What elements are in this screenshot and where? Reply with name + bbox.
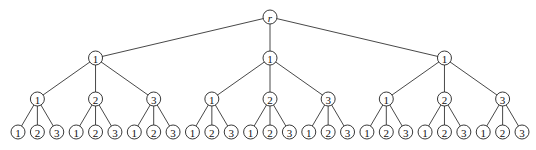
tree-edge [37,58,95,99]
tree-node: 3 [496,92,510,106]
node-label: 3 [345,127,351,139]
node-label: 1 [248,127,254,139]
tree-node: 2 [437,92,451,106]
node-label: r [268,12,273,24]
tree-leaf-node: 2 [30,125,44,139]
tree-leaf-node: 3 [282,125,296,139]
node-label: 2 [209,127,215,139]
tree-leaf-node: 2 [147,125,161,139]
tree-node: 1 [89,51,103,65]
node-label: 3 [287,127,293,139]
node-label: 3 [54,127,60,139]
tree-leaf-node: 3 [50,125,64,139]
tree-edge [96,17,270,58]
tree-diagram: 123112321233112311232123311231123212331r [0,0,536,150]
tree-leaf-node: 1 [302,125,316,139]
node-label: 1 [73,127,79,139]
tree-leaf-node: 1 [476,125,490,139]
tree-leaf-node: 1 [69,125,83,139]
tree-node: 1 [30,92,44,106]
node-label: 2 [151,127,157,139]
node-label: 2 [500,127,506,139]
node-label: 3 [112,127,118,139]
tree-node: 1 [437,51,451,65]
node-label: 3 [325,94,331,106]
node-label: 1 [422,127,428,139]
node-label: 1 [384,94,390,106]
node-label: 1 [93,53,99,65]
tree-edge [444,58,502,99]
node-label: 2 [267,94,273,106]
node-label: 1 [209,94,215,106]
tree-leaf-node: 2 [321,125,335,139]
tree-leaf-node: 1 [127,125,141,139]
node-label: 2 [384,127,390,139]
node-label: 3 [403,127,409,139]
tree-leaf-node: 2 [496,125,510,139]
node-label: 3 [500,94,506,106]
tree-node: 3 [321,92,335,106]
tree-leaf-node: 3 [108,125,122,139]
tree-node: 2 [89,92,103,106]
node-label: 1 [267,53,273,65]
tree-leaf-node: 3 [224,125,238,139]
node-label: 2 [442,127,448,139]
tree-leaf-node: 3 [399,125,413,139]
node-label: 1 [15,127,21,139]
tree-leaf-node: 1 [185,125,199,139]
tree-leaf-node: 1 [360,125,374,139]
node-label: 3 [151,94,157,106]
node-label: 3 [519,127,525,139]
tree-leaf-node: 3 [166,125,180,139]
tree-leaf-node: 3 [457,125,471,139]
node-label: 3 [170,127,176,139]
node-label: 1 [480,127,486,139]
tree-edge [212,58,270,99]
tree-leaf-node: 2 [205,125,219,139]
tree-node: 1 [205,92,219,106]
node-label: 1 [35,94,41,106]
tree-node: 2 [263,92,277,106]
node-label: 1 [190,127,196,139]
node-label: 1 [306,127,312,139]
node-label: 1 [442,53,448,65]
tree-leaf-node: 2 [437,125,451,139]
node-label: 2 [35,127,41,139]
tree-leaf-node: 3 [515,125,529,139]
node-label: 3 [228,127,234,139]
node-label: 3 [461,127,467,139]
node-label: 2 [325,127,331,139]
node-label: 2 [93,127,99,139]
node-label: 2 [93,94,99,106]
tree-edge [96,58,154,99]
tree-leaf-node: 3 [341,125,355,139]
tree-leaf-node: 1 [418,125,432,139]
tree-node: 3 [147,92,161,106]
node-label: 1 [132,127,138,139]
tree-edge [386,58,444,99]
tree-leaf-node: 1 [244,125,258,139]
node-label: 1 [364,127,370,139]
tree-edge [270,58,328,99]
tree-leaf-node: 2 [89,125,103,139]
tree-leaf-node: 1 [11,125,25,139]
node-label: 2 [267,127,273,139]
tree-edges [18,17,522,132]
node-label: 2 [442,94,448,106]
tree-root-node: r [263,10,277,24]
tree-leaf-node: 2 [379,125,393,139]
tree-leaf-node: 2 [263,125,277,139]
tree-node: 1 [263,51,277,65]
tree-node: 1 [379,92,393,106]
tree-edge [270,17,444,58]
